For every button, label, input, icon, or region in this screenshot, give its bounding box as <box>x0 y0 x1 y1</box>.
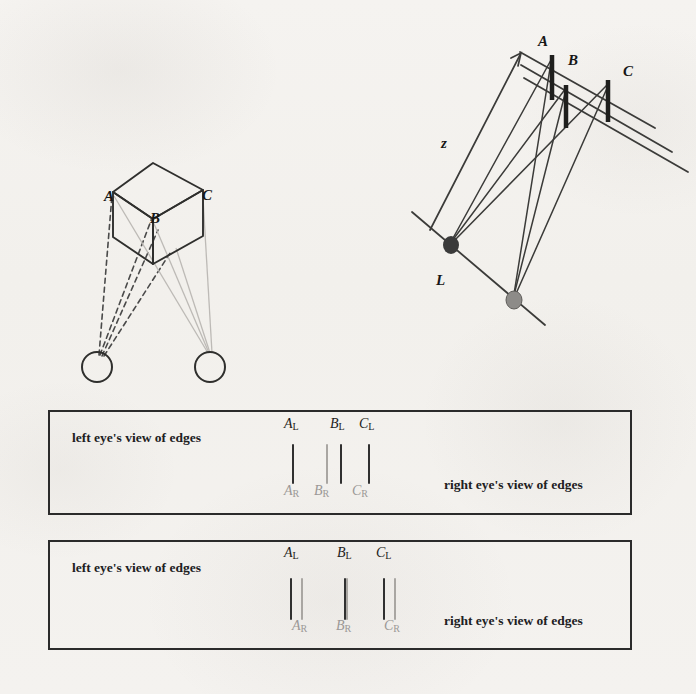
panel1-right-eye-caption: right eye's view of edges <box>444 477 583 493</box>
panel2-label-B-right: BR <box>336 618 351 634</box>
cube-label-B: B <box>150 210 160 227</box>
panel2-label-A-left: AL <box>284 545 299 561</box>
panel1-label-B-left: BL <box>330 416 345 432</box>
panel1-tick-C-left <box>368 444 370 484</box>
panel2-tick-C-right <box>394 578 396 620</box>
ray-label-L: L <box>436 272 445 289</box>
panel2-label-A-right: AR <box>292 618 307 634</box>
panel1-tick-A-left <box>292 444 294 484</box>
panel2-tick-A-right <box>301 578 303 620</box>
rays-from-L <box>452 60 608 242</box>
panel2-label-C-left: CL <box>376 545 391 561</box>
panel1-left-eye-caption: left eye's view of edges <box>72 430 201 446</box>
cube-label-A: A <box>104 188 114 205</box>
ray-label-B: B <box>568 52 578 69</box>
panel1-label-C-left: CL <box>359 416 374 432</box>
panel2-label-C-right: CR <box>384 618 400 634</box>
cube-label-C: C <box>202 187 212 204</box>
right-eye-sight-lines <box>114 196 212 353</box>
panel1-label-A-left: AL <box>284 416 299 432</box>
panel2-left-eye-caption: left eye's view of edges <box>72 560 201 576</box>
ray-label-A: A <box>538 33 548 50</box>
panel2-label-B-left: BL <box>337 545 352 561</box>
rays-from-right-eye <box>514 62 608 296</box>
panel2-tick-C-left <box>383 578 385 620</box>
panel1-label-A-right: AR <box>284 483 299 499</box>
ray-label-C: C <box>623 63 633 80</box>
panel1-label-C-right: CR <box>352 483 368 499</box>
right-eye-circle <box>195 352 225 382</box>
panel1-tick-B-left <box>340 444 342 484</box>
ray-label-z: z <box>441 135 447 152</box>
eye-point-right <box>506 291 522 309</box>
panel1-label-B-right: BR <box>314 483 329 499</box>
left-eye-circle <box>82 352 112 382</box>
ray-diagram-group <box>412 52 688 325</box>
panel2-right-eye-caption: right eye's view of edges <box>444 613 583 629</box>
panel2-tick-A-left <box>290 578 292 620</box>
panel2-tick-B-right <box>346 578 348 620</box>
eye-point-L <box>443 236 459 254</box>
panel1-tick-B-right <box>326 444 328 484</box>
